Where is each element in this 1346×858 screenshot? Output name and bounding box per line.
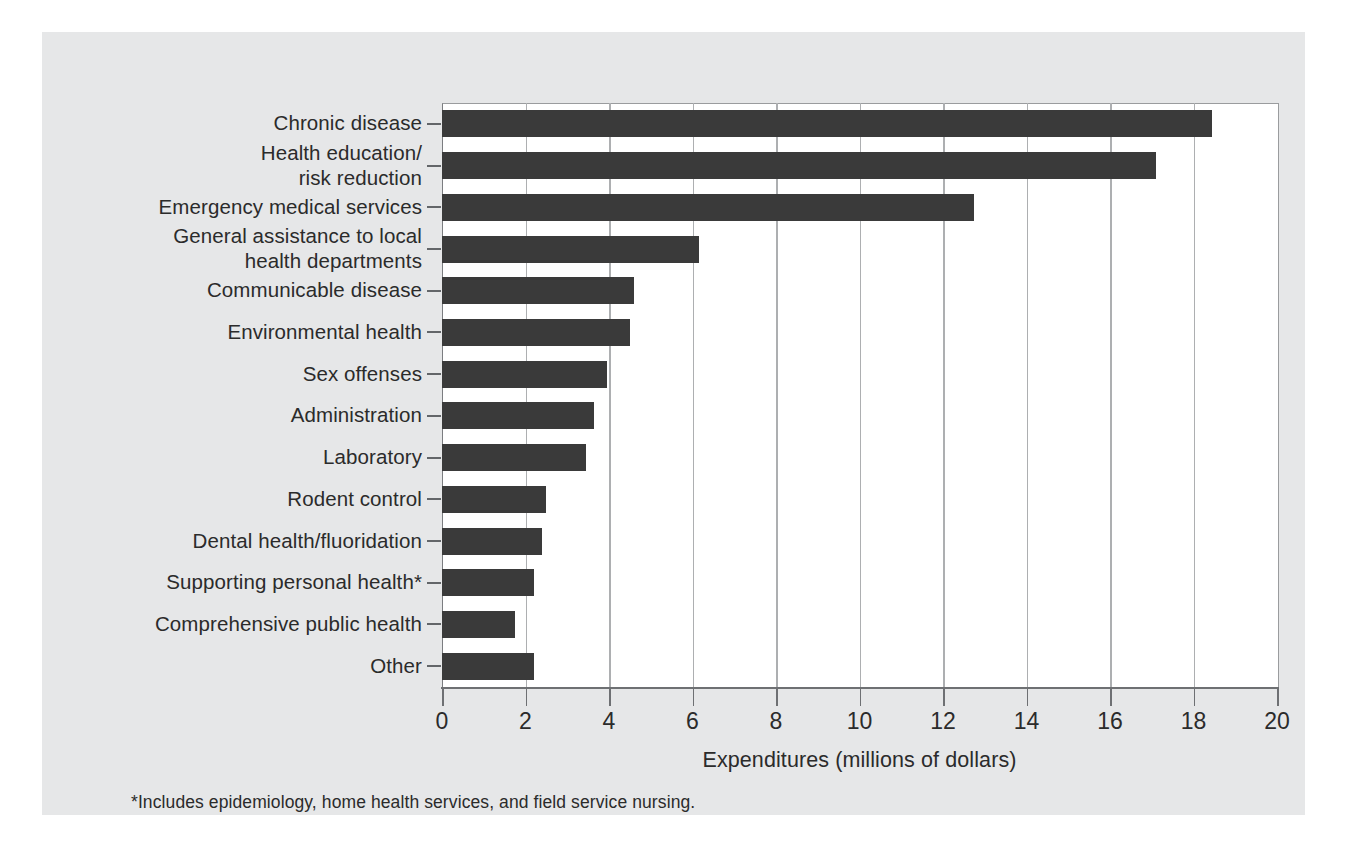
x-axis-tick-16 [1110, 689, 1112, 706]
bar [442, 319, 630, 346]
bar [442, 277, 634, 304]
bar [442, 528, 542, 555]
y-axis-label: Sex offenses [82, 361, 422, 386]
x-axis-tick-label: 18 [1164, 708, 1224, 735]
gridline-4 [609, 103, 611, 687]
x-axis-tick-6 [693, 689, 695, 706]
gridline-18 [1194, 103, 1196, 687]
x-axis-tick-12 [943, 689, 945, 706]
y-axis-label: Environmental health [82, 319, 422, 344]
gridline-6 [693, 103, 695, 687]
x-axis-tick-label: 14 [997, 708, 1057, 735]
y-axis-label: Comprehensive public health [82, 611, 422, 636]
x-axis-title: Expenditures (millions of dollars) [442, 748, 1277, 773]
x-axis-tick-14 [1027, 689, 1029, 706]
y-axis-tick [427, 415, 441, 417]
bar [442, 402, 594, 429]
y-axis-label: Other [82, 653, 422, 678]
y-axis-tick [427, 582, 441, 584]
x-axis-tick-10 [860, 689, 862, 706]
y-axis-label: Communicable disease [82, 277, 422, 302]
footnote-text: *Includes epidemiology, home health serv… [131, 792, 695, 813]
gridline-14 [1027, 103, 1029, 687]
x-axis-tick-label: 0 [412, 708, 472, 735]
y-axis-tick [427, 331, 441, 333]
y-axis-labels: Chronic diseaseHealth education/risk red… [67, 103, 422, 687]
y-axis-label: General assistance to localhealth depart… [82, 223, 422, 273]
x-axis-tick-label: 2 [496, 708, 556, 735]
gridline-2 [526, 103, 528, 687]
y-axis-tick [427, 206, 441, 208]
x-axis-tick-label: 6 [663, 708, 723, 735]
y-axis-label: Rodent control [82, 486, 422, 511]
bar [442, 361, 607, 388]
x-axis-tick-label: 12 [913, 708, 973, 735]
chart-panel: Chronic diseaseHealth education/risk red… [42, 32, 1305, 815]
x-axis-tick-label: 4 [579, 708, 639, 735]
y-axis-tick [427, 123, 441, 125]
y-axis-tick [427, 373, 441, 375]
x-axis-tick-8 [776, 689, 778, 706]
x-axis-tick-label: 16 [1080, 708, 1140, 735]
y-axis-label: Chronic disease [82, 110, 422, 135]
y-axis-tick [427, 623, 441, 625]
bar [442, 194, 974, 221]
x-axis-tick-label: 8 [746, 708, 806, 735]
bar [442, 152, 1156, 179]
bar [442, 486, 546, 513]
y-axis-tick [427, 290, 441, 292]
x-axis-tick-label: 10 [830, 708, 890, 735]
x-axis-tick-18 [1194, 689, 1196, 706]
bar [442, 236, 699, 263]
gridline-10 [860, 103, 862, 687]
y-axis-label: Supporting personal health* [82, 569, 422, 594]
y-axis-label: Administration [82, 402, 422, 427]
gridline-8 [776, 103, 778, 687]
gridline-12 [943, 103, 945, 687]
x-axis-tick-4 [609, 689, 611, 706]
bar [442, 569, 534, 596]
y-axis-tick [427, 457, 441, 459]
y-axis-tick [427, 248, 441, 250]
x-axis-tick-2 [526, 689, 528, 706]
x-axis-tick-0 [442, 689, 444, 706]
bar [442, 653, 534, 680]
gridline-16 [1110, 103, 1112, 687]
y-axis-tick [427, 165, 441, 167]
bar [442, 444, 586, 471]
y-axis-tick [427, 665, 441, 667]
figure: Chronic diseaseHealth education/risk red… [0, 0, 1346, 858]
y-axis-label: Health education/risk reduction [82, 140, 422, 190]
y-axis-label: Emergency medical services [82, 194, 422, 219]
x-axis-tick-20 [1277, 689, 1279, 706]
y-axis-label: Dental health/fluoridation [82, 528, 422, 553]
x-axis-tick-label: 20 [1247, 708, 1307, 735]
y-axis-label: Laboratory [82, 444, 422, 469]
y-axis-tick [427, 540, 441, 542]
y-axis-tick [427, 498, 441, 500]
bar [442, 611, 515, 638]
bar [442, 110, 1212, 137]
